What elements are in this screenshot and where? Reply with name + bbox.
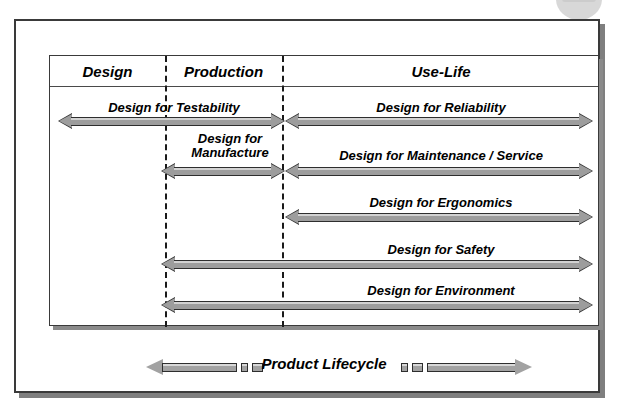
lifecycle-label: Product Lifecycle [239, 355, 409, 372]
arrow-testability [58, 114, 285, 129]
column-header-production: Production [165, 56, 282, 87]
arrow-manufacture [161, 164, 285, 179]
diagram-outer-frame: Design Production Use-Life Design for Te… [14, 19, 600, 393]
arrow-ergonomics [285, 210, 593, 225]
row-label-safety: Design for Safety [288, 242, 594, 257]
row-label-testability: Design for Testability [64, 100, 284, 115]
row-label-maintenance: Design for Maintenance / Service [288, 148, 594, 163]
column-header-design: Design [50, 56, 165, 87]
row-label-manufacture-line1: Design for [174, 132, 286, 146]
product-lifecycle-band: Product Lifecycle [49, 337, 599, 397]
arrow-reliability [285, 114, 593, 129]
row-label-reliability: Design for Reliability [288, 100, 594, 115]
corner-artifact [556, 0, 602, 20]
column-header-use-life: Use-Life [282, 56, 600, 87]
row-label-manufacture-line2: Manufacture [174, 146, 286, 160]
row-label-ergonomics: Design for Ergonomics [288, 195, 594, 210]
arrow-environment [161, 298, 593, 313]
row-label-environment: Design for Environment [288, 283, 594, 298]
phase-divider-production-uselife [282, 56, 284, 327]
lifecycle-matrix: Design Production Use-Life Design for Te… [49, 55, 599, 326]
phase-divider-design-production [165, 56, 167, 327]
matrix-header-row: Design Production Use-Life [50, 56, 598, 87]
lifecycle-arrow-right [401, 359, 533, 375]
arrow-safety [161, 257, 593, 272]
row-label-manufacture: Design for Manufacture [174, 132, 286, 160]
arrow-maintenance [285, 164, 593, 179]
